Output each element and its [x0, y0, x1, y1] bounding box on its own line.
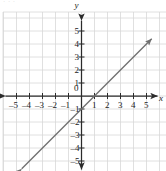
graph-figure: · · · –5–4–3–2–11234554321–1–2–3–4–50yx — [0, 0, 166, 171]
y-tick-label-neg5: –5 — [71, 157, 80, 166]
x-tick-label-neg1: –1 — [61, 101, 70, 110]
y-tick-label-pos5: 5 — [75, 27, 80, 36]
x-tick-label-pos5: 5 — [144, 101, 149, 110]
gridlines — [3, 12, 166, 171]
x-tick-label-neg4: –4 — [22, 101, 31, 110]
y-tick-label-pos4: 4 — [75, 40, 80, 49]
x-tick-label-pos1: 1 — [92, 101, 97, 110]
y-tick-label-pos3: 3 — [75, 53, 80, 62]
x-tick-label-pos4: 4 — [131, 101, 136, 110]
origin-label: 0 — [74, 84, 79, 93]
axis-lines — [5, 21, 157, 170]
x-tick-label-neg2: –2 — [48, 101, 57, 110]
y-tick-label-pos2: 2 — [75, 66, 80, 75]
x-axis-name: x — [159, 94, 163, 103]
x-tick-label-pos2: 2 — [105, 101, 110, 110]
y-axis-name: y — [75, 1, 79, 10]
x-tick-label-pos3: 3 — [118, 101, 123, 110]
coordinate-plane — [0, 0, 166, 171]
y-tick-label-neg2: –2 — [71, 118, 80, 127]
x-tick-label-neg3: –3 — [35, 101, 44, 110]
y-tick-label-neg4: –4 — [71, 144, 80, 153]
y-tick-label-neg1: –1 — [71, 105, 80, 114]
y-tick-label-neg3: –3 — [71, 131, 80, 140]
x-tick-label-neg5: –5 — [9, 101, 18, 110]
